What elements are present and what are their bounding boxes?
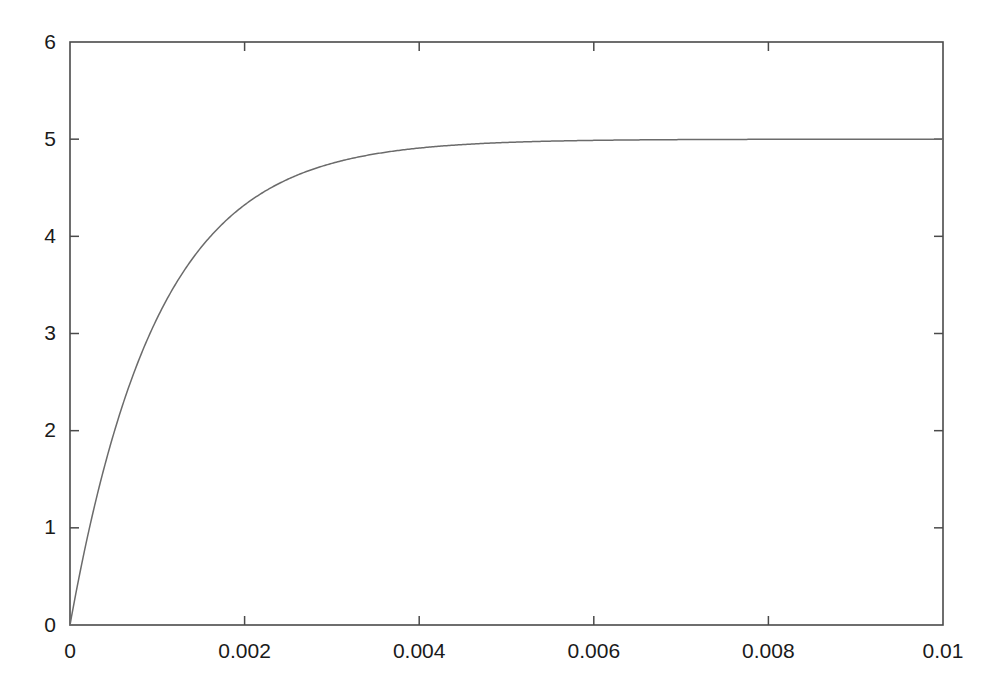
x-tick-label: 0.01 [923,639,964,662]
x-tick-label: 0.008 [742,639,795,662]
axis-ticks [70,42,943,625]
y-tick-label: 0 [44,613,56,636]
x-tick-label: 0.006 [568,639,621,662]
y-tick-label: 6 [44,30,56,53]
x-tick-label: 0 [64,639,76,662]
y-axis-tick-labels: 0123456 [44,30,56,636]
y-tick-label: 1 [44,515,56,538]
x-axis-tick-labels: 00.0020.0040.0060.0080.01 [64,639,963,662]
data-curve-step-response [70,139,943,625]
y-tick-label: 5 [44,127,56,150]
plot-canvas: 0123456 00.0020.0040.0060.0080.01 [0,0,1001,695]
y-tick-label: 3 [44,321,56,344]
chart-figure: 0123456 00.0020.0040.0060.0080.01 [0,0,1001,695]
y-tick-label: 4 [44,224,56,247]
x-tick-label: 0.002 [218,639,271,662]
plot-frame [70,42,943,625]
x-tick-label: 0.004 [393,639,446,662]
y-tick-label: 2 [44,418,56,441]
